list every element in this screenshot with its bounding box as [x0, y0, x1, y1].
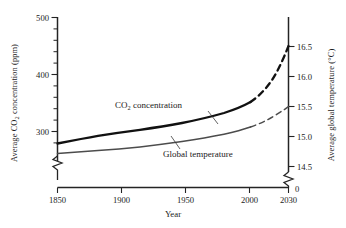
right-axis-title: Average global temperature (°C)	[327, 49, 336, 162]
chart-figure: 500 400 300 16.5 16.0 15.5 15.0 14.5 0 1…	[0, 0, 346, 228]
right-axis-break-symbol	[284, 172, 293, 188]
co2-curve-projected-dashed	[251, 46, 289, 102]
x-tick-label-1850: 1850	[49, 195, 66, 205]
right-tick-label-15-0: 15.0	[297, 132, 312, 142]
left-axis-title-group: Average CO2 concentration (ppm)	[10, 44, 20, 162]
temperature-curve-projected-dashed	[251, 107, 289, 128]
series-global-temperature	[58, 107, 289, 154]
series-co2-concentration	[58, 46, 289, 144]
left-tick-label-500: 500	[36, 13, 49, 23]
x-tick-label-2000: 2000	[241, 195, 258, 205]
chart-svg: 500 400 300 16.5 16.0 15.5 15.0 14.5 0 1…	[0, 0, 346, 228]
annotation-temperature-label: Global temperature	[163, 149, 233, 159]
right-axis-title-group: Average global temperature (°C)	[327, 49, 336, 162]
right-tick-label-14-5: 14.5	[297, 162, 312, 172]
right-tick-label-16-0: 16.0	[297, 72, 312, 82]
left-axis-title-pre: Average CO	[10, 120, 19, 162]
x-tick-label-2030: 2030	[280, 195, 297, 205]
x-tick-label-1900: 1900	[113, 195, 130, 205]
left-axis-group: 500 400 300	[36, 13, 62, 181]
annotation-co2-post: concentration	[131, 100, 183, 110]
right-axis-group: 16.5 16.0 15.5 15.0 14.5 0	[284, 17, 312, 194]
left-axis-title-post: concentration (ppm)	[10, 44, 19, 116]
annotation-co2-label: CO2 concentration	[115, 100, 182, 111]
right-tick-label-15-5: 15.5	[297, 102, 312, 112]
annotation-co2-pre: CO	[115, 100, 128, 110]
left-tick-label-300: 300	[36, 127, 49, 137]
x-axis-title: Year	[165, 209, 181, 219]
right-tick-label-16-5: 16.5	[297, 42, 312, 52]
left-axis-title: Average CO2 concentration (ppm)	[10, 44, 20, 162]
x-axis-group: 1850 1900 1950 2000 2030 Year	[49, 188, 297, 220]
x-tick-label-1950: 1950	[177, 195, 194, 205]
annotation-co2: CO2 concentration	[115, 100, 218, 124]
right-tick-label-zero: 0	[295, 184, 299, 194]
left-tick-label-400: 400	[36, 70, 49, 80]
